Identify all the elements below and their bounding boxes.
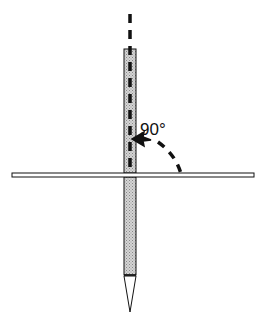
rod-tip (124, 276, 136, 312)
angle-arc (158, 142, 181, 174)
diagram-canvas (0, 0, 270, 324)
angle-label: 90° (140, 120, 166, 140)
rod-lower (124, 177, 136, 275)
horizontal-plane (12, 173, 254, 177)
